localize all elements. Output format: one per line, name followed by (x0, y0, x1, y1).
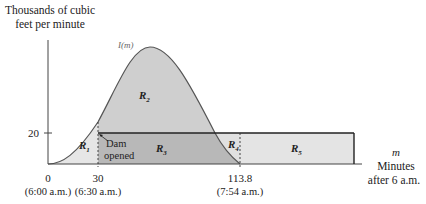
x-tick-113: 113.8 (220, 172, 260, 185)
x-tick-0: 0 (38, 172, 58, 185)
region-label-r2: R2 (139, 89, 150, 104)
x-tick-30-time: (6:30 a.m.) (68, 185, 128, 198)
x-tick-113-time: (7:54 a.m.) (210, 185, 270, 198)
region-label-r5: R5 (291, 142, 302, 157)
region-label-r3: R3 (156, 142, 167, 157)
dam-opened-label-2: opened (104, 149, 134, 162)
x-axis-label-2: after 6 a.m. (362, 174, 426, 187)
region-r1 (48, 122, 98, 164)
region-label-r4: R4 (228, 138, 239, 153)
curve-label: I(m) (118, 39, 134, 52)
region-label-r1: R1 (79, 139, 90, 154)
x-tick-30: 30 (88, 172, 108, 185)
x-variable-m: m (366, 146, 426, 159)
y-axis-label-2: feet per minute (0, 18, 100, 31)
y-axis-label-1: Thousands of cubic (0, 4, 100, 17)
y-tick-label-20: 20 (28, 127, 39, 140)
x-axis-label-1: Minutes (366, 160, 426, 173)
